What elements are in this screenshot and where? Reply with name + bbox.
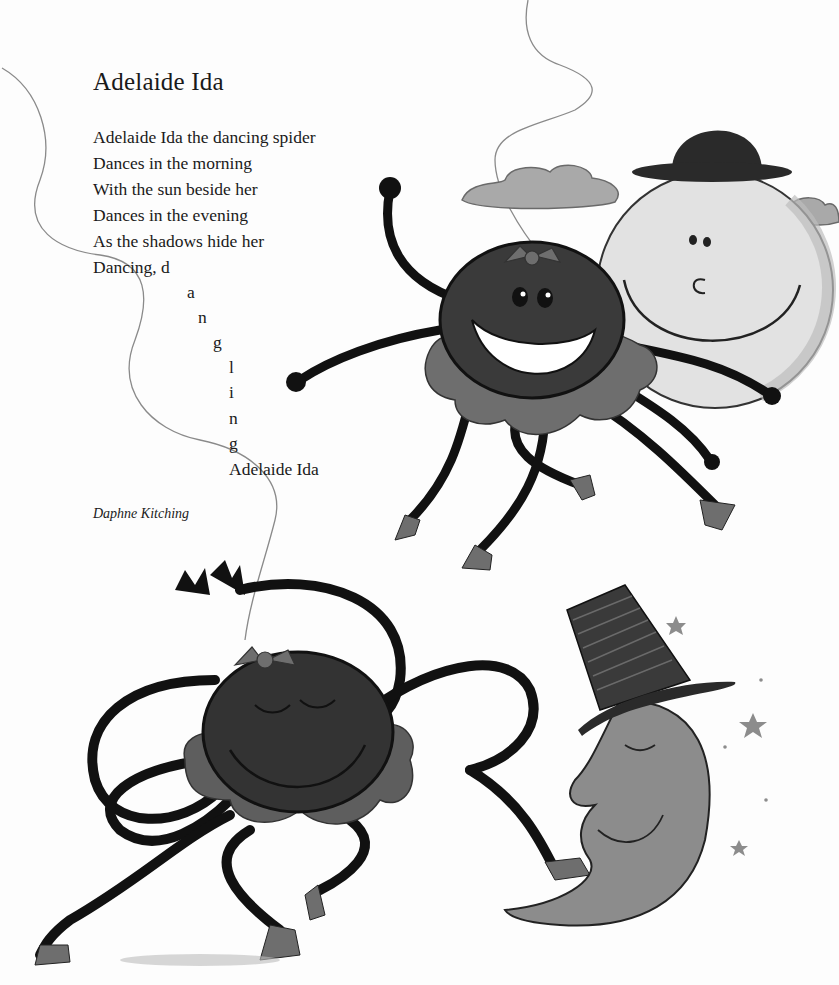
poem-stanza: Adelaide Ida the dancing spider Dances i… bbox=[93, 124, 316, 280]
cascade-letter: a bbox=[187, 282, 195, 302]
bowler-hat-icon bbox=[632, 131, 792, 182]
cascade-letter: g bbox=[213, 332, 222, 352]
moon-character bbox=[505, 700, 710, 926]
poem-line: Dances in the morning bbox=[93, 150, 316, 176]
cascade-letter: g bbox=[229, 433, 238, 453]
poem-author: Daphne Kitching bbox=[93, 506, 189, 522]
poem-page: Adelaide Ida Adelaide Ida the dancing sp… bbox=[0, 0, 839, 985]
cascade-letter: i bbox=[229, 382, 234, 402]
cascade-letter: l bbox=[229, 357, 234, 377]
poem-line: As the shadows hide her bbox=[93, 228, 316, 254]
cascade-letter: n bbox=[229, 408, 238, 428]
poem-line: Adelaide Ida the dancing spider bbox=[93, 124, 316, 150]
poem-final-line: Adelaide Ida bbox=[229, 459, 319, 480]
web-thread-top bbox=[495, 0, 592, 260]
poem-title: Adelaide Ida bbox=[93, 68, 224, 96]
poem-line: Dances in the evening bbox=[93, 202, 316, 228]
cascade-letter: n bbox=[198, 307, 207, 327]
poem-line: With the sun beside her bbox=[93, 176, 316, 202]
spider-bottom bbox=[35, 560, 590, 966]
poem-line: Dancing, d bbox=[93, 254, 316, 280]
